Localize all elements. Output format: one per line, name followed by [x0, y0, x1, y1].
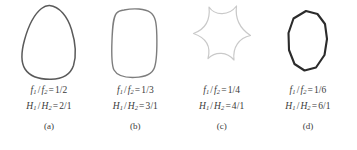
panel-b: f1/f2=1/3 H1/H2=3/1 (b)	[92, 0, 178, 150]
amplitude-ratio-a: H1/H2=2/1	[26, 100, 71, 114]
contour-c-concave-star	[189, 2, 255, 82]
contour-a-egg	[18, 2, 80, 82]
labels-d: f1/f2=1/6 H1/H2=6/1 (d)	[265, 84, 351, 132]
frequency-ratio-a: f1/f2=1/2	[31, 84, 68, 98]
shape-container-b	[92, 0, 178, 84]
frequency-ratio-b: f1/f2=1/3	[117, 84, 154, 98]
panel-d: f1/f2=1/6 H1/H2=6/1 (d)	[265, 0, 351, 150]
panel-caption-d: (d)	[303, 121, 314, 132]
amplitude-ratio-d: H1/H2=6/1	[285, 100, 330, 114]
panel-caption-c: (c)	[217, 121, 227, 132]
panel-caption-b: (b)	[130, 121, 141, 132]
contour-d-rounded-polygon	[279, 2, 337, 82]
shape-container-c	[179, 0, 265, 84]
labels-a: f1/f2=1/2 H1/H2=2/1 (a)	[6, 84, 92, 132]
shape-container-a	[6, 0, 92, 84]
panel-c: f1/f2=1/4 H1/H2=4/1 (c)	[179, 0, 265, 150]
labels-b: f1/f2=1/3 H1/H2=3/1 (b)	[92, 84, 178, 132]
frequency-ratio-d: f1/f2=1/6	[290, 84, 327, 98]
panel-a: f1/f2=1/2 H1/H2=2/1 (a)	[6, 0, 92, 150]
contour-b-rounded-rectangle	[104, 2, 166, 82]
harmonic-shapes-figure: f1/f2=1/2 H1/H2=2/1 (a) f1/f2=1/3 H1/H2=…	[0, 0, 357, 150]
frequency-ratio-c: f1/f2=1/4	[203, 84, 240, 98]
amplitude-ratio-b: H1/H2=3/1	[113, 100, 158, 114]
panel-caption-a: (a)	[44, 121, 54, 132]
shape-container-d	[265, 0, 351, 84]
labels-c: f1/f2=1/4 H1/H2=4/1 (c)	[179, 84, 265, 132]
amplitude-ratio-c: H1/H2=4/1	[199, 100, 244, 114]
